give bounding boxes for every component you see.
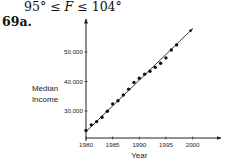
data-point [154, 66, 157, 69]
scatter-chart: 1980198519901995200030,00040,00050,000 Y… [0, 0, 225, 168]
data-point [164, 56, 167, 59]
axis-labels: YearMedianIncome [32, 84, 148, 160]
data-point [111, 102, 114, 105]
x-tick-label: 1985 [106, 141, 120, 148]
y-axis-title: Median [32, 84, 58, 93]
data-point [148, 69, 151, 72]
y-tick-label: 50,000 [64, 48, 83, 55]
data-point [143, 72, 146, 75]
y-axis-title: Income [32, 95, 59, 104]
data-point [106, 110, 109, 113]
data-point [159, 62, 162, 65]
data-point [84, 129, 87, 132]
data-point [175, 43, 178, 46]
data-point [132, 81, 135, 84]
data-point [127, 87, 130, 90]
data-point [95, 120, 98, 123]
data-point [138, 77, 141, 80]
data-point [170, 48, 173, 51]
data-point [122, 93, 125, 96]
data-point [116, 99, 119, 102]
x-tick-label: 1990 [132, 141, 146, 148]
y-tick-label: 40,000 [64, 78, 83, 85]
x-tick-label: 1995 [159, 141, 173, 148]
data-point [90, 123, 93, 126]
x-tick-label: 2000 [186, 141, 200, 148]
y-tick-label: 30,000 [64, 107, 83, 114]
chart-ticks: 1980198519901995200030,00040,00050,000 [64, 48, 200, 148]
data-point [100, 115, 103, 118]
x-tick-label: 1980 [79, 141, 93, 148]
x-axis-title: Year [131, 151, 148, 160]
chart-axes [86, 19, 221, 141]
